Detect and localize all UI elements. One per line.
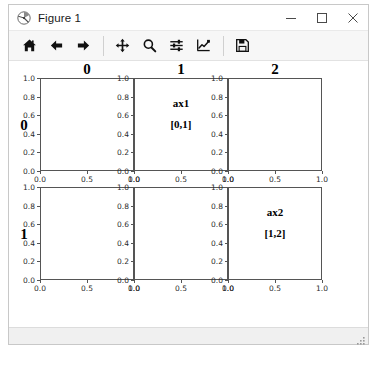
floppy-disk-icon[interactable]	[230, 34, 255, 58]
arrow-left-icon[interactable]	[44, 34, 69, 58]
axes-0-1-label-secondary: [0,1]	[170, 118, 191, 130]
axes-0-2-xtick-1	[275, 171, 276, 174]
axes-1-1-yticklabel-2: 0.4	[106, 238, 129, 247]
axes-0-1-xticklabel-0: 0.0	[128, 175, 140, 184]
axes-1-1-xticklabel-0: 0.0	[128, 284, 140, 293]
axes-1-2-ytick-3	[225, 224, 228, 225]
axes-0-1-yticklabel-5: 1.0	[106, 74, 129, 83]
axes-1-2-label-secondary: [1,2]	[264, 227, 285, 239]
axes-0-1-yticklabel-2: 0.4	[106, 129, 129, 138]
chart-line-icon[interactable]	[191, 34, 216, 58]
axes-1-1-yticklabel-0: 0.0	[106, 276, 129, 285]
axes-0-0-ytick-4	[37, 97, 40, 98]
axes-1-2-ytick-5	[225, 187, 228, 188]
axes-0-1-xticklabel-1: 0.5	[175, 175, 187, 184]
axes-1-0-ytick-1	[37, 261, 40, 262]
axes-0-0-yticklabel-0: 0.0	[12, 167, 35, 176]
matplotlib-logo-icon	[16, 10, 32, 26]
axes-0-2-yticklabel-0: 0.0	[200, 167, 223, 176]
axes-0-1-yticklabel-1: 0.2	[106, 148, 129, 157]
axes-0-0-ytick-1	[37, 152, 40, 153]
axes-1-2-xticklabel-0: 0.0	[222, 284, 234, 293]
axes-0-0-yticklabel-1: 0.2	[12, 148, 35, 157]
axes-1-1-xtick-1	[181, 280, 182, 283]
axes-1-2-yticklabel-4: 0.8	[200, 201, 223, 210]
axes-1-2-xtick-1	[275, 280, 276, 283]
axes-1-0-yticklabel-5: 1.0	[12, 183, 35, 192]
axes-1-0-yticklabel-1: 0.2	[12, 257, 35, 266]
axes-1-1-yticklabel-3: 0.6	[106, 220, 129, 229]
axes-0-2-ytick-5	[225, 78, 228, 79]
toolbar-separator-1	[103, 36, 104, 56]
resize-grip-icon[interactable]	[355, 332, 366, 343]
column-title-1: 1	[177, 61, 185, 78]
close-icon[interactable]	[337, 5, 368, 30]
axes-1-1-ytick-1	[131, 261, 134, 262]
axes-1-1-ytick-3	[131, 224, 134, 225]
axes-1-2-ytick-4	[225, 206, 228, 207]
subplot-grid: 012010.00.51.00.00.20.40.60.81.0ax1[0,1]…	[9, 61, 368, 327]
axes-0-0-ytick-0	[37, 171, 40, 172]
axes-0-0-yticklabel-3: 0.6	[12, 111, 35, 120]
axes-1-0-yticklabel-4: 0.8	[12, 201, 35, 210]
axes-1-0-ytick-2	[37, 243, 40, 244]
navigation-toolbar	[9, 31, 368, 61]
axes-0-0-xticklabel-0: 0.0	[34, 175, 46, 184]
window-title: Figure 1	[38, 12, 81, 24]
axes-0-0-yticklabel-5: 1.0	[12, 74, 35, 83]
axes-1-2-xtick-0	[228, 280, 229, 283]
axes-0-2-xtick-0	[228, 171, 229, 174]
axes-0-2-ytick-4	[225, 97, 228, 98]
axes-0-1-ytick-0	[131, 171, 134, 172]
axes-0-0-xtick-0	[40, 171, 41, 174]
axes-1-2-ytick-2	[225, 243, 228, 244]
sliders-icon[interactable]	[164, 34, 189, 58]
axes-1-1-ytick-4	[131, 206, 134, 207]
axes-0-1-ytick-1	[131, 152, 134, 153]
axes-1-0-xticklabel-1: 0.5	[81, 284, 93, 293]
axes-1-2-xticklabel-1: 0.5	[269, 284, 281, 293]
axes-0-0-yticklabel-4: 0.8	[12, 92, 35, 101]
axes-0-0-yticklabel-2: 0.4	[12, 129, 35, 138]
figure-window: Figure 1	[8, 4, 369, 345]
axes-0-1-ytick-2	[131, 134, 134, 135]
arrow-right-icon[interactable]	[71, 34, 96, 58]
axes-0-1-label-primary: ax1	[173, 97, 190, 109]
axes-1-2-yticklabel-5: 1.0	[200, 183, 223, 192]
axes-1-2[interactable]: ax2[1,2]	[228, 187, 322, 280]
title-bar: Figure 1	[9, 5, 368, 31]
axes-1-0-yticklabel-2: 0.4	[12, 238, 35, 247]
axes-0-1-ytick-3	[131, 115, 134, 116]
axes-0-2-xticklabel-0: 0.0	[222, 175, 234, 184]
axes-0-0-xticklabel-1: 0.5	[81, 175, 93, 184]
axes-1-0-yticklabel-0: 0.0	[12, 276, 35, 285]
minimize-icon[interactable]	[275, 5, 306, 30]
axes-1-0-xtick-1	[87, 280, 88, 283]
maximize-icon[interactable]	[306, 5, 337, 30]
figure-canvas[interactable]: 012010.00.51.00.00.20.40.60.81.0ax1[0,1]…	[9, 61, 368, 327]
home-icon[interactable]	[17, 34, 42, 58]
axes-0-2-yticklabel-5: 1.0	[200, 74, 223, 83]
move-cross-icon[interactable]	[110, 34, 135, 58]
axes-1-1-ytick-2	[131, 243, 134, 244]
axes-1-2-ytick-1	[225, 261, 228, 262]
axes-0-2-ytick-1	[225, 152, 228, 153]
axes-0-2-xticklabel-1: 0.5	[269, 175, 281, 184]
axes-1-1-xticklabel-1: 0.5	[175, 284, 187, 293]
axes-1-2-xticklabel-2: 1.0	[316, 284, 328, 293]
axes-1-2-label-primary: ax2	[267, 206, 284, 218]
axes-1-2-yticklabel-2: 0.4	[200, 238, 223, 247]
column-title-0: 0	[83, 61, 91, 78]
axes-0-1-xtick-0	[134, 171, 135, 174]
axes-1-1-ytick-0	[131, 280, 134, 281]
axes-1-0-ytick-5	[37, 187, 40, 188]
axes-1-2-xtick-2	[322, 280, 323, 283]
magnifier-icon[interactable]	[137, 34, 162, 58]
axes-1-1-xtick-0	[134, 280, 135, 283]
axes-0-2[interactable]	[228, 78, 322, 171]
axes-1-2-yticklabel-1: 0.2	[200, 257, 223, 266]
axes-1-0-ytick-4	[37, 206, 40, 207]
axes-0-0-ytick-3	[37, 115, 40, 116]
axes-0-2-yticklabel-1: 0.2	[200, 148, 223, 157]
axes-0-0-ytick-5	[37, 78, 40, 79]
